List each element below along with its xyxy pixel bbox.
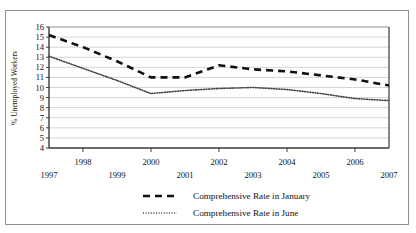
y-axis-tick-label: 4: [40, 143, 45, 153]
y-axis-tick-label: 6: [40, 123, 45, 133]
x-axis-tick-label: 1997: [40, 170, 58, 180]
x-axis-tick-label: 1998: [74, 157, 91, 167]
y-axis-ticks-group: 16151413121110987654: [35, 22, 49, 153]
y-axis-tick-label: 8: [40, 103, 44, 113]
y-axis-tick-label: 14: [35, 42, 44, 52]
y-axis-tick-label: 7: [40, 113, 45, 123]
x-axis-tick-label: 2000: [142, 157, 159, 167]
x-axis-tick-label: 2003: [244, 170, 261, 180]
y-axis-tick-label: 10: [35, 83, 44, 93]
legend-label-january: Comprehensive Rate in January: [193, 191, 311, 201]
x-axis-ticks-group: 1997199819992000200120022003200420052006…: [40, 148, 398, 180]
y-axis-tick-label: 9: [40, 93, 44, 103]
x-axis-tick-label: 1999: [108, 170, 125, 180]
y-axis-tick-label: 16: [35, 22, 44, 32]
x-axis-tick-label: 2001: [176, 170, 193, 180]
y-axis-tick-label: 15: [35, 32, 44, 42]
chart-legend: Comprehensive Rate in January Comprehens…: [143, 191, 311, 218]
x-axis-tick-label: 2006: [346, 157, 364, 167]
x-axis-tick-label: 2004: [278, 157, 296, 167]
y-axis-tick-label: 13: [35, 52, 44, 62]
y-axis-tick-label: 12: [35, 62, 44, 72]
legend-label-june: Comprehensive Rate in June: [193, 208, 298, 218]
x-axis-tick-label: 2007: [380, 170, 398, 180]
y-axis-tick-label: 5: [40, 133, 44, 143]
line-chart: 16151413121110987654 1997199819992000200…: [0, 0, 416, 233]
chart-figure: 16151413121110987654 1997199819992000200…: [0, 0, 416, 233]
y-axis-tick-label: 11: [36, 72, 44, 82]
x-axis-tick-label: 2005: [312, 170, 329, 180]
y-axis-title: % Unemployed Workers: [10, 51, 19, 125]
x-axis-tick-label: 2002: [210, 157, 227, 167]
